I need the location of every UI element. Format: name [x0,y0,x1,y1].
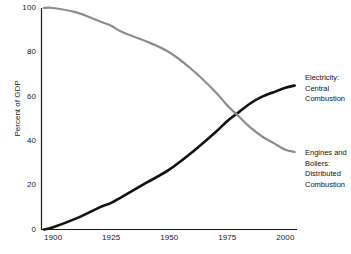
chart-figure: Percent of GDP 020406080100 190019251950… [0,0,351,254]
y-tick-100: 100 [12,3,36,12]
y-tick-60: 60 [12,92,36,101]
x-tick-1975: 1975 [207,233,247,242]
chart-plot-area [0,0,351,254]
series-label-engines-boilers-distributed-combustion: Engines andBoilers:DistributedCombustion [305,148,347,190]
series-label-electricity-central-combustion: Electricity:CentralCombustion [305,73,345,105]
series-label-line: Engines and [305,148,347,159]
series-label-line: Distributed [305,169,347,180]
y-tick-20: 20 [12,180,36,189]
series-label-line: Electricity: [305,73,345,84]
y-tick-40: 40 [12,136,36,145]
series-label-line: Boilers: [305,159,347,170]
x-tick-2000: 2000 [265,233,305,242]
series-label-line: Combustion [305,180,347,191]
series-label-line: Central [305,84,345,95]
x-tick-1925: 1925 [91,233,131,242]
chart-line-series-1 [44,8,295,152]
x-tick-1900: 1900 [33,233,73,242]
chart-line-series-0 [44,86,295,230]
x-tick-1950: 1950 [149,233,189,242]
chart-series-group [44,8,295,230]
series-label-line: Combustion [305,94,345,105]
y-tick-80: 80 [12,47,36,56]
chart-axes [42,8,298,230]
